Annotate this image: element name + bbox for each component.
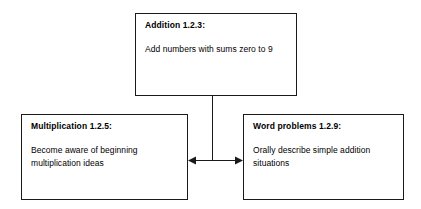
node-addition-title: Addition 1.2.3:: [145, 20, 205, 30]
arrowhead-right-icon: [235, 157, 243, 165]
node-addition-body: Add numbers with sums zero to 9: [145, 43, 289, 56]
node-wordproblems-body: Orally describe simple addition situatio…: [253, 144, 396, 169]
node-multiplication-title: Multiplication 1.2.5:: [31, 121, 112, 131]
node-multiplication-body: Become aware of beginning multiplication…: [31, 144, 180, 169]
node-wordproblems[interactable]: Word problems 1.2.9: Orally describe sim…: [243, 114, 404, 200]
node-multiplication[interactable]: Multiplication 1.2.5: Become aware of be…: [21, 114, 188, 200]
node-addition[interactable]: Addition 1.2.3: Add numbers with sums ze…: [135, 13, 297, 96]
diagram-canvas: Addition 1.2.3: Add numbers with sums ze…: [0, 0, 421, 209]
arrowhead-left-icon: [188, 157, 196, 165]
node-wordproblems-title: Word problems 1.2.9:: [253, 121, 341, 131]
